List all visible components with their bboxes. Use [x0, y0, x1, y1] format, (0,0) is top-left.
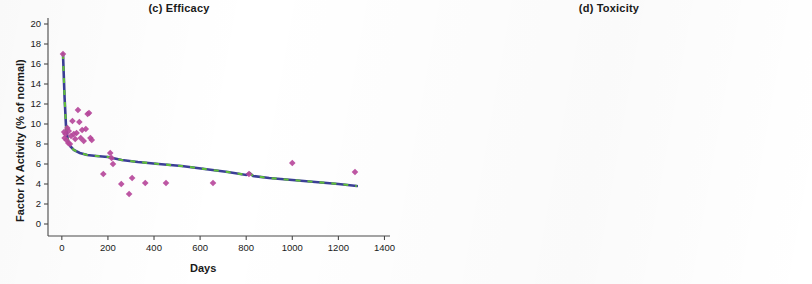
svg-text:400: 400 — [146, 242, 162, 253]
panel-c-x-axis-label: Days — [190, 262, 216, 274]
svg-text:16: 16 — [30, 58, 41, 69]
panel-c-title: (c) Efficacy — [0, 2, 382, 14]
svg-text:0: 0 — [36, 218, 41, 229]
svg-text:800: 800 — [238, 242, 254, 253]
svg-text:1000: 1000 — [282, 242, 303, 253]
svg-text:10: 10 — [30, 118, 41, 129]
panel-d-title: (d) Toxicity — [406, 2, 812, 14]
svg-text:0: 0 — [59, 242, 64, 253]
svg-text:200: 200 — [100, 242, 116, 253]
svg-text:1200: 1200 — [328, 242, 349, 253]
svg-text:20: 20 — [30, 18, 41, 29]
svg-text:8: 8 — [36, 138, 41, 149]
panel-toxicity: (d) Toxicity ALT (IU/liter) Days 0510152… — [406, 0, 812, 284]
figure-panels-c-and-d: (c) Efficacy Factor IX Activity (% of no… — [0, 0, 812, 284]
svg-text:6: 6 — [36, 158, 41, 169]
svg-text:1400: 1400 — [374, 242, 395, 253]
panel-efficacy: (c) Efficacy Factor IX Activity (% of no… — [0, 0, 406, 284]
svg-text:18: 18 — [30, 38, 41, 49]
svg-text:4: 4 — [36, 178, 41, 189]
svg-text:12: 12 — [30, 98, 41, 109]
panel-c-y-axis-label: Factor IX Activity (% of normal) — [14, 59, 26, 222]
panel-c-plot-area: 0246810121416182002004006008001000120014… — [48, 18, 396, 234]
svg-text:14: 14 — [30, 78, 41, 89]
svg-text:2: 2 — [36, 198, 41, 209]
svg-text:600: 600 — [192, 242, 208, 253]
